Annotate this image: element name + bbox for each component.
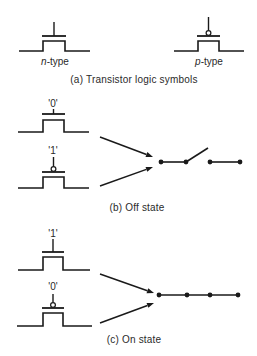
off-state-switch-node-dot-icon <box>238 160 243 165</box>
n-type-label: n-type <box>41 57 69 67</box>
logic-level-label-on-n: '1' <box>48 229 57 239</box>
off-state-arrow-arrowhead-icon <box>146 167 153 172</box>
off-state-switch-node-dot-icon <box>159 160 164 165</box>
on-state-p-transistor-channel <box>17 313 92 326</box>
on-state-switch-node-dot-icon <box>185 293 190 298</box>
n-type-label-suffix: -type <box>47 56 69 67</box>
off-state-n-transistor-channel <box>18 120 89 132</box>
caption-off-state: (b) Off state <box>109 203 164 213</box>
logic-level-label-off-p: '1' <box>48 146 57 156</box>
off-state-switch-node-dot-icon <box>184 160 189 165</box>
p-type-symbol-channel <box>174 41 244 51</box>
on-state-switch-node-dot-icon <box>157 293 162 298</box>
n-type-symbol-channel <box>19 41 90 51</box>
off-state-switch-open-lever <box>186 148 208 162</box>
on-state-arrow <box>100 274 147 291</box>
p-type-label-suffix: -type <box>201 56 223 67</box>
p-type-symbol-inversion-bubble-icon <box>206 31 211 36</box>
logic-level-label-on-p: '0' <box>48 282 57 292</box>
transistor-switch-diagram: n-type p-type (a) Transistor logic symbo… <box>0 0 257 356</box>
diagram-canvas <box>0 0 257 356</box>
p-type-label: p-type <box>195 57 223 67</box>
caption-on-state: (c) On state <box>107 335 162 345</box>
on-state-n-transistor-channel <box>18 257 90 270</box>
on-state-switch-node-dot-icon <box>236 293 241 298</box>
caption-transistor-logic-symbols: (a) Transistor logic symbols <box>70 75 197 85</box>
off-state-arrow <box>100 169 146 186</box>
on-state-p-transistor-inversion-bubble-icon <box>51 303 56 308</box>
logic-level-label-off-n: '0' <box>48 99 57 109</box>
off-state-switch-node-dot-icon <box>208 160 213 165</box>
on-state-arrow-arrowhead-icon <box>147 288 154 293</box>
off-state-p-transistor-channel <box>18 177 89 188</box>
off-state-p-transistor-inversion-bubble-icon <box>51 167 56 172</box>
off-state-arrow <box>100 137 146 155</box>
on-state-switch-node-dot-icon <box>208 293 213 298</box>
on-state-arrow <box>100 305 147 323</box>
on-state-arrow-arrowhead-icon <box>147 303 154 308</box>
off-state-arrow-arrowhead-icon <box>146 152 153 157</box>
